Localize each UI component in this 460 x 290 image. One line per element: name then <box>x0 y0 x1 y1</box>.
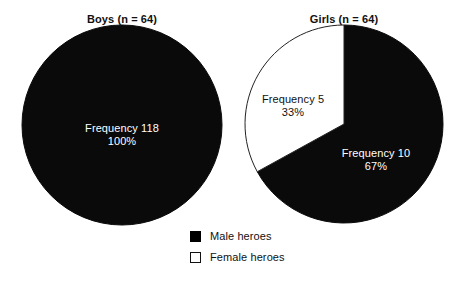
slice-label-frequency: Frequency 5 <box>262 93 324 105</box>
legend-item-male-heroes: Male heroes <box>190 230 285 242</box>
legend-swatch-icon-female-heroes <box>190 252 201 263</box>
legend-label-male-heroes: Male heroes <box>210 230 272 242</box>
slice-label-frequency: Frequency 10 <box>342 147 410 159</box>
chart-figure: Boys (n = 64) Frequency 118 100% Girls (… <box>0 0 460 290</box>
slice-label-girls-female-heroes: Frequency 5 33% <box>262 93 324 119</box>
slice-label-girls-male-heroes: Frequency 10 67% <box>342 147 410 173</box>
chart-legend: Male heroes Female heroes <box>190 230 285 263</box>
legend-swatch-icon-male-heroes <box>190 231 201 242</box>
legend-item-female-heroes: Female heroes <box>190 251 285 263</box>
slice-label-percent: 33% <box>262 106 324 119</box>
pie-chart-girls <box>243 23 445 225</box>
slice-label-boys-male-heroes: Frequency 118 100% <box>85 122 159 148</box>
slice-label-frequency: Frequency 118 <box>85 122 159 134</box>
legend-label-female-heroes: Female heroes <box>210 251 285 263</box>
slice-label-percent: 67% <box>342 160 410 173</box>
slice-label-percent: 100% <box>85 135 159 148</box>
